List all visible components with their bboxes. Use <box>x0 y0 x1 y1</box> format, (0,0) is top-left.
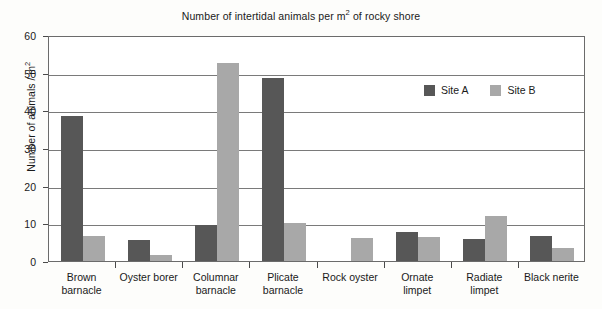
bar-site-b <box>485 216 507 261</box>
x-category-label-line: Brown <box>48 271 115 284</box>
chart-title-text-main: Number of intertidal animals per m <box>182 10 346 22</box>
bar-group <box>385 37 452 261</box>
y-tick-label: 30 <box>0 143 44 155</box>
x-tick-mark <box>384 262 385 268</box>
bar-site-a <box>262 78 284 261</box>
y-axis-title-text-main: Number of animals / m <box>25 66 37 172</box>
x-category-label-line: barnacle <box>182 284 249 297</box>
bar-site-a <box>128 240 150 261</box>
x-category-label: Oyster borer <box>115 271 182 284</box>
bar-site-a <box>396 232 418 261</box>
x-tick-mark <box>182 262 183 268</box>
bar-site-b <box>351 238 373 261</box>
chart-title: Number of intertidal animals per m2 of r… <box>0 8 602 22</box>
bar-group <box>519 37 586 261</box>
x-category-label-line: Columnar <box>182 271 249 284</box>
x-category-label-line: barnacle <box>249 284 316 297</box>
bars-layer <box>49 37 584 261</box>
bar-site-a <box>463 239 485 261</box>
x-tick-mark <box>451 262 452 268</box>
bar-site-a <box>61 116 83 261</box>
legend-swatch-icon <box>490 85 501 96</box>
x-tick-mark <box>518 262 519 268</box>
legend-entry-site-b[interactable]: Site B <box>490 84 535 96</box>
x-category-label: Black nerite <box>518 271 585 284</box>
x-tick-mark <box>115 262 116 268</box>
legend-entry-site-a[interactable]: Site A <box>424 84 468 96</box>
legend-label: Site B <box>507 84 535 96</box>
bar-site-b <box>552 248 574 261</box>
x-category-label: Rock oyster <box>317 271 384 284</box>
bar-group <box>318 37 385 261</box>
x-category-label-line: Black nerite <box>518 271 585 284</box>
x-category-label-line: barnacle <box>48 284 115 297</box>
bar-group <box>183 37 250 261</box>
y-tick-label: 20 <box>0 181 44 193</box>
x-category-label: Plicatebarnacle <box>249 271 316 297</box>
x-category-label-line: limpet <box>384 284 451 297</box>
chart-title-text-tail: of rocky shore <box>350 10 420 22</box>
bar-chart: Number of intertidal animals per m2 of r… <box>0 0 602 309</box>
x-category-label-line: limpet <box>451 284 518 297</box>
bar-group <box>116 37 183 261</box>
bar-site-b <box>418 237 440 261</box>
x-category-label-line: Oyster borer <box>115 271 182 284</box>
y-tick-label: 60 <box>0 30 44 42</box>
y-axis-title-superscript: 2 <box>23 62 32 66</box>
bar-group <box>49 37 116 261</box>
x-category-label: Ornatelimpet <box>384 271 451 297</box>
legend-label: Site A <box>441 84 468 96</box>
y-tick-label: 10 <box>0 218 44 230</box>
bar-site-b <box>150 255 172 261</box>
x-category-label-line: Rock oyster <box>317 271 384 284</box>
x-category-label-line: Radiate <box>451 271 518 284</box>
x-category-label: Brownbarnacle <box>48 271 115 297</box>
legend-swatch-icon <box>424 85 435 96</box>
x-category-label-line: Ornate <box>384 271 451 284</box>
bar-group <box>452 37 519 261</box>
bar-site-b <box>83 236 105 261</box>
bar-site-b <box>217 63 239 261</box>
x-category-label-line: Plicate <box>249 271 316 284</box>
plot-area <box>48 36 585 262</box>
x-tick-mark <box>249 262 250 268</box>
y-tick-mark <box>43 262 48 263</box>
bar-site-b <box>284 223 306 261</box>
y-tick-label: 0 <box>0 256 44 268</box>
x-category-label: Columnarbarnacle <box>182 271 249 297</box>
y-tick-label: 40 <box>0 105 44 117</box>
bar-group <box>250 37 317 261</box>
y-tick-label: 50 <box>0 68 44 80</box>
bar-site-a <box>530 236 552 261</box>
bar-site-a <box>195 225 217 261</box>
x-tick-mark <box>317 262 318 268</box>
chart-legend: Site ASite B <box>424 84 535 96</box>
x-category-label: Radiatelimpet <box>451 271 518 297</box>
